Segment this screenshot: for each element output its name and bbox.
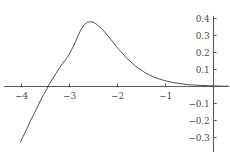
y-tick-label: −0.3 [188, 133, 209, 142]
y-tick-label: 0.1 [196, 65, 210, 74]
x-tick-label: −4 [15, 92, 28, 101]
x-tick-label: −2 [111, 92, 124, 101]
y-tick-label: −0.2 [188, 116, 209, 125]
x-tick-label: −3 [63, 92, 76, 101]
y-tick-label: −0.1 [188, 99, 209, 108]
x-tick-label: −1 [159, 92, 172, 101]
chart-figure: −4−3−2−1 0.40.30.20.1−0.1−0.2−0.3 [0, 0, 230, 155]
y-tick-label: 0.2 [196, 48, 210, 57]
y-tick-label: 0.3 [196, 31, 210, 40]
y-tick-label: 0.4 [196, 14, 210, 23]
